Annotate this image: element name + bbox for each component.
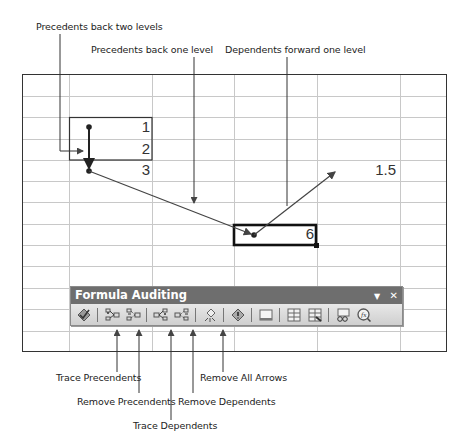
toolbar-title-bar[interactable]: Formula Auditing ▼ ✕: [71, 287, 402, 304]
separator: [279, 308, 280, 322]
error-check-icon: [76, 307, 92, 323]
show-watch-window-button[interactable]: [333, 305, 352, 324]
svg-text:fx: fx: [360, 311, 367, 319]
callout-trace-dependents: Trace Dependents: [133, 420, 217, 431]
separator: [146, 308, 147, 322]
new-comment-button[interactable]: [256, 305, 275, 324]
trace-error-icon: [230, 307, 246, 323]
separator: [328, 308, 329, 322]
trace-precedents-button[interactable]: [102, 305, 121, 324]
evaluate-formula-button[interactable]: fx: [354, 305, 373, 324]
trace-dependents-button[interactable]: [151, 305, 170, 324]
callout-remove-dependents: Remove Dependents: [178, 396, 276, 407]
separator: [97, 308, 98, 322]
remove-all-arrows-button[interactable]: [200, 305, 219, 324]
clear-circles-icon: [307, 307, 323, 323]
toolbar-button-row: fx: [71, 304, 402, 325]
comment-icon: [258, 307, 274, 323]
formula-auditing-toolbar[interactable]: Formula Auditing ▼ ✕: [70, 286, 403, 326]
remove-dependents-icon: [174, 307, 190, 323]
separator: [223, 308, 224, 322]
trace-precedents-icon: [104, 307, 120, 323]
remove-all-arrows-icon: [202, 307, 218, 323]
precedent-range-box: [70, 118, 153, 161]
clear-validation-circles-button[interactable]: [305, 305, 324, 324]
trace-dependents-icon: [153, 307, 169, 323]
callout-trace-precedents: Trace Precendents: [56, 372, 141, 383]
separator: [195, 308, 196, 322]
selected-cell-border: [234, 225, 316, 245]
circle-invalid-data-button[interactable]: [284, 305, 303, 324]
circle-invalid-icon: [286, 307, 302, 323]
remove-precedent-arrows-button[interactable]: [123, 305, 142, 324]
callout-remove-all-arrows: Remove All Arrows: [200, 372, 287, 383]
toolbar-title: Formula Auditing: [75, 288, 187, 302]
callout-remove-precedents: Remove Precendents: [77, 396, 176, 407]
remove-precedents-icon: [125, 307, 141, 323]
watch-window-icon: [335, 307, 351, 323]
trace-error-button[interactable]: [228, 305, 247, 324]
error-checking-button[interactable]: [74, 305, 93, 324]
fill-handle: [314, 243, 319, 248]
toolbar-options-icon[interactable]: ▼: [374, 292, 380, 301]
remove-dependent-arrows-button[interactable]: [172, 305, 191, 324]
close-icon[interactable]: ✕: [390, 290, 398, 301]
evaluate-formula-icon: fx: [356, 307, 372, 323]
separator: [251, 308, 252, 322]
